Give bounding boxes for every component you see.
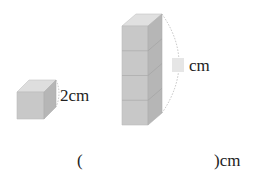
small-cube	[17, 80, 56, 119]
tower-height-blank[interactable]	[172, 58, 184, 72]
answer-open-paren: (	[77, 151, 83, 171]
cube-tower	[122, 14, 162, 125]
answer-input-area[interactable]	[88, 152, 210, 172]
answer-close-paren-unit: )cm	[214, 151, 240, 171]
tower-height-unit: cm	[189, 56, 210, 76]
small-cube-edge-label: 2cm	[60, 86, 89, 106]
small-cube-dimension-arc	[56, 80, 59, 107]
